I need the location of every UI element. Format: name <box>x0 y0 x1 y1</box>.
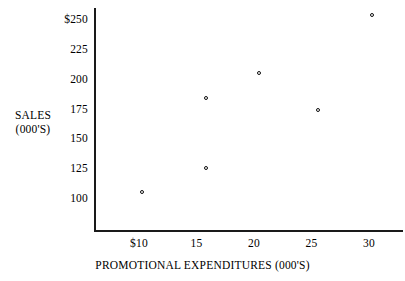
y-axis-title-line-2: (000'S) <box>2 122 64 136</box>
data-point <box>316 108 320 112</box>
data-point <box>204 166 208 170</box>
data-point <box>204 96 208 100</box>
y-axis-title-line-1: SALES <box>2 108 64 122</box>
y-tick-label: $250 <box>64 14 88 26</box>
y-tick-label: 200 <box>70 74 88 86</box>
y-tick-label: 150 <box>70 134 88 146</box>
y-tick-label: 100 <box>70 193 88 205</box>
data-point <box>257 71 261 75</box>
y-axis-title: SALES (000'S) <box>2 108 64 136</box>
plot-area <box>95 8 403 231</box>
x-tick-label: 30 <box>363 238 375 250</box>
x-tick-label: $10 <box>130 238 148 250</box>
y-tick-label: 125 <box>70 163 88 175</box>
x-axis-title: PROMOTIONAL EXPENDITURES (000'S) <box>0 260 405 272</box>
y-tick-label: 175 <box>70 104 88 116</box>
y-axis-tick-labels: $250225200175150125100 <box>0 0 88 281</box>
x-tick-label: 20 <box>248 238 260 250</box>
x-tick-label: 25 <box>306 238 318 250</box>
x-tick-label: 15 <box>191 238 203 250</box>
y-tick-label: 225 <box>70 44 88 56</box>
scatter-plot-figure: $250225200175150125100 $1015202530 SALES… <box>0 0 405 281</box>
